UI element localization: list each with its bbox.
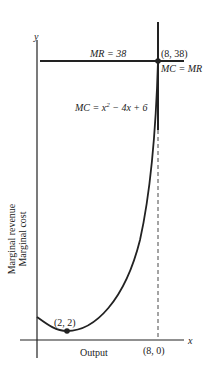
point-equilibrium: [155, 58, 161, 64]
equilibrium-point-label: (8, 38): [161, 49, 188, 59]
mr-label: MR = 38: [90, 49, 126, 59]
x8-point-label: (8, 0): [143, 346, 165, 356]
y-axis-title: Marginal revenue Marginal cost: [6, 184, 28, 294]
x-axis-label: x: [188, 336, 192, 346]
mc-eq-mr-label: MC = MR: [161, 64, 202, 74]
mc-function-label: MC = x2 − 4x + 6: [75, 102, 148, 113]
x-axis-title: Output: [80, 348, 108, 358]
point-minimum: [64, 328, 70, 334]
y-axis-label: y: [34, 32, 38, 42]
minimum-point-label: (2, 2): [54, 318, 76, 328]
